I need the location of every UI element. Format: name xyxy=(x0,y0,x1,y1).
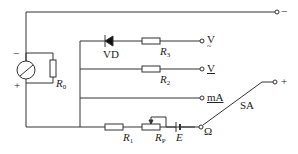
circuit-wiring xyxy=(0,0,298,154)
terminal-minus-label: − xyxy=(281,6,287,17)
terminal-minus xyxy=(275,10,279,14)
terminal-dc-v-label: V xyxy=(207,63,215,74)
terminal-plus xyxy=(273,80,277,84)
terminal-ohm-label: Ω xyxy=(204,126,212,137)
terminal-ma-label: mA xyxy=(207,92,224,103)
r2-label: R2 xyxy=(160,74,170,87)
r3-label: R3 xyxy=(160,46,170,59)
r1-label: R1 xyxy=(123,132,133,145)
terminal-ac-v xyxy=(200,39,204,43)
rp-label: RP xyxy=(155,132,166,145)
terminal-plus-label: + xyxy=(281,76,287,87)
terminal-ma xyxy=(200,96,204,100)
vd-label: VD xyxy=(103,49,119,60)
diode xyxy=(105,36,113,46)
meter-minus-label: − xyxy=(13,48,19,59)
resistor-r1 xyxy=(105,124,123,130)
terminal-ac-v-label: V~ xyxy=(207,34,215,45)
circuit-diagram: − + R0 VD R3 R2 R1 RP E SA − V~ V mA Ω + xyxy=(0,0,298,154)
shunt-resistor xyxy=(50,60,56,77)
meter-plus-label: + xyxy=(14,80,20,91)
r0-label: R0 xyxy=(56,78,66,91)
meter-symbol xyxy=(17,61,35,79)
terminal-ohm xyxy=(199,125,203,129)
battery-label: E xyxy=(176,132,183,143)
resistor-r3 xyxy=(142,38,160,44)
switch-label: SA xyxy=(240,100,254,111)
resistor-r2 xyxy=(142,66,160,72)
terminal-dc-v xyxy=(200,67,204,71)
